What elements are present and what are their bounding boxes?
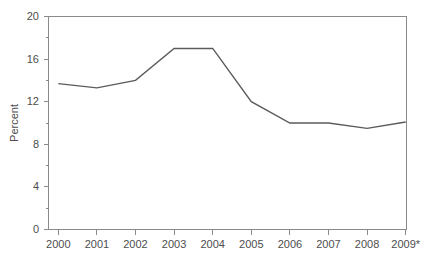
y-tick-label-4: 4: [33, 180, 39, 192]
y-tick-label-16: 16: [27, 53, 39, 65]
y-tick-label-12: 12: [27, 95, 39, 107]
x-tick-label-2006: 2006: [278, 238, 302, 250]
plot-area-background: [48, 16, 406, 229]
y-tick-label-0: 0: [33, 223, 39, 235]
x-tick-label-2007: 2007: [316, 238, 340, 250]
x-axis-ticks: [58, 230, 405, 235]
y-axis-title: Percent: [8, 104, 20, 142]
x-tick-label-2005: 2005: [239, 238, 263, 250]
line-chart: 20 16 12 8 4 0 Percent 2000 2001 2002 20…: [0, 0, 435, 267]
x-tick-label-2002: 2002: [123, 238, 147, 250]
y-tick-label-8: 8: [33, 138, 39, 150]
x-tick-label-2000: 2000: [46, 238, 70, 250]
x-tick-label-2001: 2001: [85, 238, 109, 250]
x-tick-label-2008: 2008: [355, 238, 379, 250]
x-tick-label-2009: 2009*: [391, 238, 420, 250]
chart-canvas: 20 16 12 8 4 0 Percent 2000 2001 2002 20…: [0, 0, 435, 267]
y-tick-label-20: 20: [27, 10, 39, 22]
x-tick-label-2004: 2004: [200, 238, 224, 250]
x-tick-label-2003: 2003: [162, 238, 186, 250]
